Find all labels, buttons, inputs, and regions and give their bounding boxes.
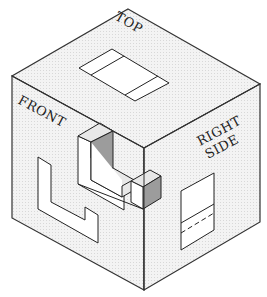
glass-box-diagram: TOP FRONT RIGHT SIDE <box>0 0 267 297</box>
